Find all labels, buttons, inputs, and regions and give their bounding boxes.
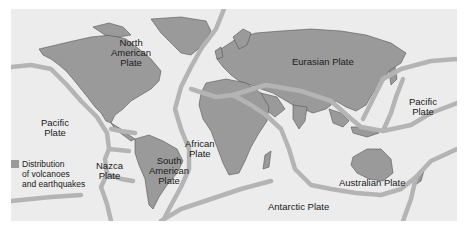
plate-label-south-american: South American Plate (149, 156, 189, 186)
label-line: Plate (96, 171, 123, 181)
legend-line: and earthquakes (22, 179, 85, 189)
label-line: Plate (149, 176, 189, 186)
label-line: Plate (409, 107, 437, 117)
legend-line: of volcanoes (22, 169, 85, 179)
legend-swatch (11, 160, 19, 168)
label-line: Plate (111, 58, 151, 68)
plate-label-nazca: Nazca Plate (96, 161, 123, 181)
plate-label-african: African Plate (185, 139, 215, 159)
legend-line: Distribution (22, 159, 85, 169)
plate-label-north-american: North American Plate (111, 38, 151, 68)
tectonic-plate-map: North American Plate Eurasian Plate Paci… (11, 9, 457, 221)
label-line: Antarctic Plate (268, 202, 329, 212)
plate-label-eurasian: Eurasian Plate (292, 57, 354, 67)
plate-label-australian: Australian Plate (339, 178, 406, 188)
plate-label-antarctic: Antarctic Plate (268, 202, 329, 212)
legend-text: Distribution of volcanoes and earthquake… (22, 159, 85, 189)
map-graphic (11, 9, 457, 221)
plate-label-pacific-east: Pacific Plate (409, 97, 437, 117)
label-line: Eurasian Plate (292, 57, 354, 67)
label-line: Plate (185, 149, 215, 159)
plate-label-pacific-west: Pacific Plate (41, 118, 69, 138)
label-line: Plate (41, 128, 69, 138)
label-line: Australian Plate (339, 178, 406, 188)
